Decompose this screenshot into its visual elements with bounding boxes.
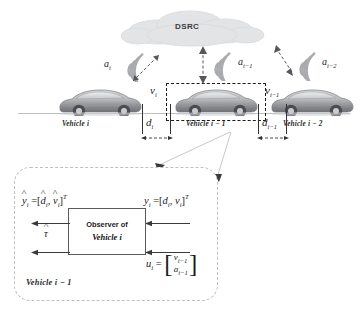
vehicle-i-2-label: Vehicle i − 2 — [283, 120, 323, 128]
accel-label-vehicle-i-2: ai−2 — [322, 56, 336, 69]
bidirectional-arrow-vehicle-i-2 — [272, 44, 298, 82]
observer-box: Observer of Vehicle i — [68, 208, 146, 255]
car-vehicle-i-2 — [268, 86, 356, 116]
estimate-y-hat: y — [22, 195, 27, 206]
control-row-2: ai−1 — [174, 264, 188, 276]
dsrc-label: DSRC — [175, 22, 199, 31]
velocity-label-vehicle-i: vi — [150, 84, 157, 98]
formula-tau-output: τ — [44, 228, 48, 239]
formula-measurement-input: yi =[di, vi]T — [144, 193, 189, 208]
vector-bracket-left: [ — [164, 254, 172, 274]
vector-bracket-right: ] — [189, 254, 197, 274]
comma-2: , — [170, 195, 173, 206]
arrow-input-measurement — [144, 214, 190, 232]
bidirectional-arrow-vehicle-i-1 — [192, 44, 214, 92]
bidirectional-arrow-vehicle-i — [124, 46, 168, 94]
control-vector: [ vi−1 ai−1 ] — [164, 252, 197, 277]
estimate-d-hat: d — [41, 195, 46, 206]
observer-box-line2: Vehicle i — [92, 233, 122, 242]
control-row-1: vi−1 — [174, 252, 188, 264]
highlight-box-vehicle-i-1 — [166, 83, 266, 121]
transpose-1: T — [63, 193, 67, 200]
eq-sign-3: = — [156, 258, 162, 269]
accel-label-vehicle-i-1: ai−1 — [238, 56, 252, 69]
estimate-v-hat: v — [53, 195, 58, 206]
figure-canvas: DSRC Vehicle i — [0, 0, 363, 315]
distance-label-d-i-1: di−1 — [262, 116, 277, 130]
accel-label-vehicle-i: ai — [104, 58, 111, 71]
observer-panel-label: Vehicle i − 1 — [26, 278, 72, 287]
transpose-2: T — [185, 193, 189, 200]
comma-1: , — [48, 195, 51, 206]
arrow-output-estimate — [30, 214, 70, 232]
arrow-output-tau — [30, 243, 70, 261]
tau-hat: τ — [44, 228, 48, 239]
formula-estimate-output: yi =[di, vi]T — [22, 193, 67, 208]
formula-control-input: ui = [ vi−1 ai−1 ] — [146, 252, 197, 277]
vehicle-i-1-label: Vehicle i − 1 — [186, 120, 226, 128]
vehicle-i-label: Vehicle i — [62, 120, 89, 128]
distance-label-d-i: di — [146, 116, 153, 130]
observer-box-line1: Observer of — [86, 221, 128, 229]
